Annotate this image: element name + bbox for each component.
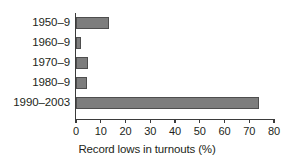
x-axis-tick-label: 30: [137, 125, 163, 137]
x-axis-tick: [273, 119, 274, 123]
bar: [76, 77, 87, 89]
x-axis-tick-label: 20: [113, 125, 139, 137]
bar-row: [76, 33, 274, 53]
x-axis-tick: [150, 119, 151, 123]
bar: [76, 97, 259, 109]
x-axis-tick: [249, 119, 250, 123]
bar-row: [76, 53, 274, 73]
x-axis-tick-label: 50: [187, 125, 213, 137]
bar: [76, 17, 109, 29]
bar-row: [76, 13, 274, 33]
bar: [76, 57, 88, 69]
x-axis-tick: [100, 119, 101, 123]
x-axis-tick-label: 80: [261, 125, 287, 137]
x-axis-tick: [199, 119, 200, 123]
x-axis-tick: [174, 119, 175, 123]
category-label: 1990–2003: [0, 96, 70, 109]
category-label: 1980–9: [0, 76, 70, 89]
plot-area: [76, 13, 274, 117]
category-label: 1970–9: [0, 56, 70, 69]
x-axis-tick: [224, 119, 225, 123]
x-axis-tick: [75, 119, 76, 123]
x-axis-tick-label: 40: [162, 125, 188, 137]
category-label: 1950–9: [0, 16, 70, 29]
x-axis-tick-label: 0: [63, 125, 89, 137]
x-axis-tick-label: 70: [236, 125, 262, 137]
bar-chart-figure: 01020304050607080 1950–91960–91970–91980…: [0, 0, 294, 165]
x-axis-tick: [125, 119, 126, 123]
bar-row: [76, 93, 274, 113]
bar-row: [76, 73, 274, 93]
bar: [76, 37, 81, 49]
x-axis-tick-label: 10: [88, 125, 114, 137]
category-label: 1960–9: [0, 36, 70, 49]
x-axis-title: Record lows in turnouts (%): [0, 142, 294, 156]
x-axis-tick-label: 60: [212, 125, 238, 137]
